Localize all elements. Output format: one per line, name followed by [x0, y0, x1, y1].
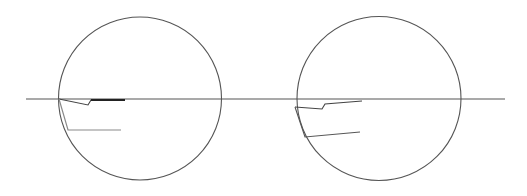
- left-lower-polyline: [59, 99, 121, 130]
- diagram-svg: [0, 0, 527, 196]
- diagram-canvas: [0, 0, 527, 196]
- right-upper-polyline: [295, 101, 362, 109]
